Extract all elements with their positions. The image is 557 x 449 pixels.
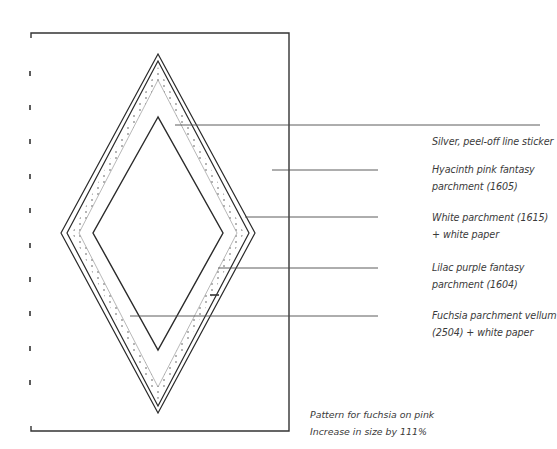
band-inner-diamond	[79, 80, 237, 387]
diamond-outlines	[61, 54, 255, 413]
label-silver-sticker: Silver, peel-off line sticker	[432, 133, 553, 150]
label-line: Hyacinth pink fantasy	[432, 161, 535, 178]
inner-diamond	[93, 117, 223, 350]
caption-line: Pattern for fuchsia on pink	[310, 406, 434, 423]
label-lilac-parchment: Lilac purple fantasy parchment (1604)	[432, 259, 524, 293]
label-line: Lilac purple fantasy	[432, 259, 524, 276]
label-line: Silver, peel-off line sticker	[432, 133, 553, 150]
pattern-caption: Pattern for fuchsia on pink Increase in …	[310, 406, 434, 440]
label-white-parchment: White parchment (1615) + white paper	[432, 209, 548, 243]
label-line: + white paper	[432, 226, 548, 243]
dotted-parchment-band	[60, 50, 260, 420]
label-line: parchment (1604)	[432, 276, 524, 293]
outer-diamond	[61, 54, 255, 413]
caption-line: Increase in size by 111%	[310, 423, 434, 440]
second-diamond	[67, 61, 249, 406]
pattern-diagram: Silver, peel-off line sticker Hyacinth p…	[0, 0, 557, 449]
label-line: White parchment (1615)	[432, 209, 548, 226]
card-frame	[31, 33, 289, 431]
label-hyacinth-parchment: Hyacinth pink fantasy parchment (1605)	[432, 161, 535, 195]
label-line: parchment (1605)	[432, 178, 535, 195]
label-fuchsia-vellum: Fuchsia parchment vellum (2504) + white …	[432, 307, 557, 341]
label-line: Fuchsia parchment vellum	[432, 307, 557, 324]
label-line: (2504) + white paper	[432, 324, 557, 341]
